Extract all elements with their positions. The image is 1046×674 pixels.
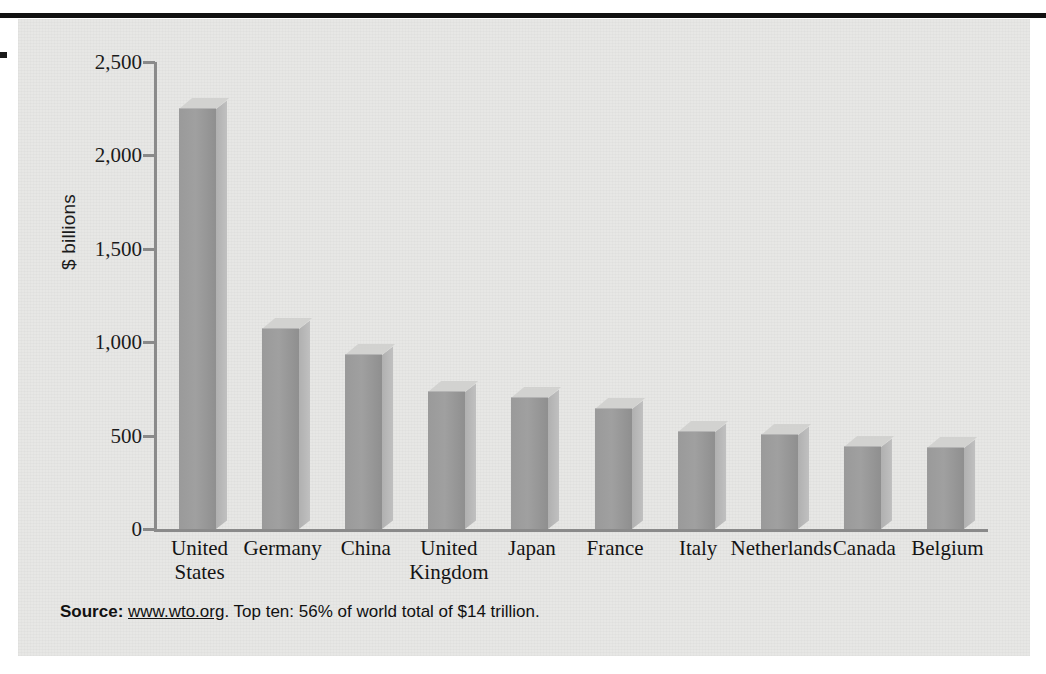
source-note: Source: www.wto.org. Top ten: 56% of wor… — [60, 602, 540, 622]
figure-root: $ billions 05001,0001,5002,0002,500 Unit… — [0, 0, 1046, 674]
bar — [511, 398, 548, 529]
category-label-line1: France — [586, 536, 643, 560]
bar — [761, 435, 798, 529]
bar-front-face — [179, 109, 216, 529]
bar — [428, 392, 465, 529]
y-axis-tick-label: 1,500 — [95, 236, 142, 261]
bar-front-face — [345, 355, 382, 529]
bar-front-face — [678, 432, 715, 529]
bar-top-edge — [844, 446, 881, 447]
bar-front-face — [428, 392, 465, 529]
y-axis-tick-label: 2,500 — [95, 50, 142, 75]
bar-front-face — [262, 329, 299, 529]
bar-series — [157, 62, 988, 529]
category-label-line1: United — [171, 536, 228, 560]
bar-side-face — [465, 383, 476, 529]
source-note-rest: . Top ten: 56% of world total of $14 tri… — [224, 602, 539, 621]
y-axis-tick — [143, 341, 155, 344]
bar — [345, 355, 382, 529]
bar-side-face — [715, 423, 726, 529]
bar — [678, 432, 715, 529]
y-axis-tick-label: 0 — [132, 517, 143, 542]
bar — [262, 329, 299, 529]
category-label-line2: States — [148, 560, 251, 584]
category-label-line1: Japan — [508, 536, 556, 560]
bar — [844, 447, 881, 529]
bar-top-edge — [345, 354, 382, 355]
bar-top-edge — [678, 431, 715, 432]
y-axis-tick — [143, 154, 155, 157]
x-axis-category-labels: UnitedStatesGermanyChinaUnitedKingdomJap… — [157, 536, 988, 588]
bar-side-face — [881, 438, 892, 529]
bar-side-face — [299, 321, 310, 529]
left-edge-mark — [0, 52, 7, 58]
top-rule-divider — [0, 13, 1046, 18]
y-axis-tick-label: 500 — [111, 423, 143, 448]
category-label-line2: Kingdom — [397, 560, 500, 584]
bar-top-edge — [927, 447, 964, 448]
category-label-line1: United — [420, 536, 477, 560]
bar-front-face — [595, 409, 632, 529]
bar-front-face — [844, 447, 881, 529]
bar-top-edge — [179, 108, 216, 109]
category-label-line1: China — [341, 536, 391, 560]
bar-side-face — [964, 439, 975, 529]
y-axis-tick-label: 2,000 — [95, 143, 142, 168]
bar — [927, 448, 964, 529]
bar-front-face — [927, 448, 964, 529]
source-url-link[interactable]: www.wto.org — [128, 602, 224, 621]
y-axis-tick — [143, 61, 155, 64]
plot-area — [154, 62, 988, 532]
bar-top-edge — [595, 408, 632, 409]
bar-top-edge — [761, 434, 798, 435]
y-axis-tick — [143, 435, 155, 438]
bar-side-face — [632, 400, 643, 529]
bar-top-edge — [428, 391, 465, 392]
bar — [179, 109, 216, 529]
y-axis-tick-labels: 05001,0001,5002,0002,500 — [64, 62, 142, 532]
category-label-line1: Italy — [679, 536, 717, 560]
bar-front-face — [511, 398, 548, 529]
x-axis-line — [154, 529, 988, 532]
bar-front-face — [761, 435, 798, 529]
category-label-line1: Germany — [244, 536, 322, 560]
bar — [595, 409, 632, 529]
bar-top-edge — [511, 397, 548, 398]
y-axis-tick — [143, 248, 155, 251]
bar-side-face — [798, 426, 809, 529]
y-axis-tick — [143, 528, 155, 531]
y-axis-tick-label: 1,000 — [95, 330, 142, 355]
bar-side-face — [216, 100, 227, 529]
x-axis-category-label: Belgium — [896, 536, 999, 560]
category-label-line1: Belgium — [911, 536, 983, 560]
bar-side-face — [382, 347, 393, 529]
category-label-line1: Canada — [833, 536, 896, 560]
bar-side-face — [548, 390, 559, 529]
bar-top-edge — [262, 328, 299, 329]
source-label: Source: — [60, 602, 123, 621]
